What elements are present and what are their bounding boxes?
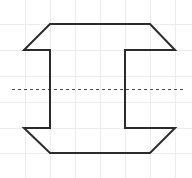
geometry-figure-svg [0, 0, 192, 178]
figure-canvas [0, 0, 192, 178]
